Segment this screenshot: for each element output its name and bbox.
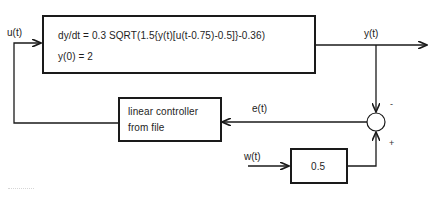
- signal-label-y: y(t): [364, 28, 378, 39]
- junction-sign-minus: -: [390, 99, 393, 109]
- signal-label-e: e(t): [252, 103, 267, 114]
- plant-equation: dy/dt = 0.3 SQRT(1.5{y(t)[u(t-0.75)-0.5]…: [58, 30, 265, 41]
- scan-artifact: [8, 188, 34, 192]
- junction-sign-plus: +: [389, 138, 394, 148]
- gain-block: 0.5: [290, 148, 348, 184]
- summing-junction: [367, 113, 385, 131]
- controller-label-line1: linear controller: [128, 106, 198, 117]
- plant-initial-condition: y(0) = 2: [58, 51, 93, 62]
- controller-label-line2: from file: [128, 122, 164, 133]
- wire-gain-to-junction: [347, 132, 376, 166]
- controller-block: linear controller from file: [118, 97, 222, 142]
- plant-block: dy/dt = 0.3 SQRT(1.5{y(t)[u(t-0.75)-0.5]…: [42, 15, 316, 74]
- gain-value: 0.5: [311, 161, 325, 172]
- signal-label-u: u(t): [7, 27, 22, 38]
- signal-label-w: w(t): [244, 151, 261, 162]
